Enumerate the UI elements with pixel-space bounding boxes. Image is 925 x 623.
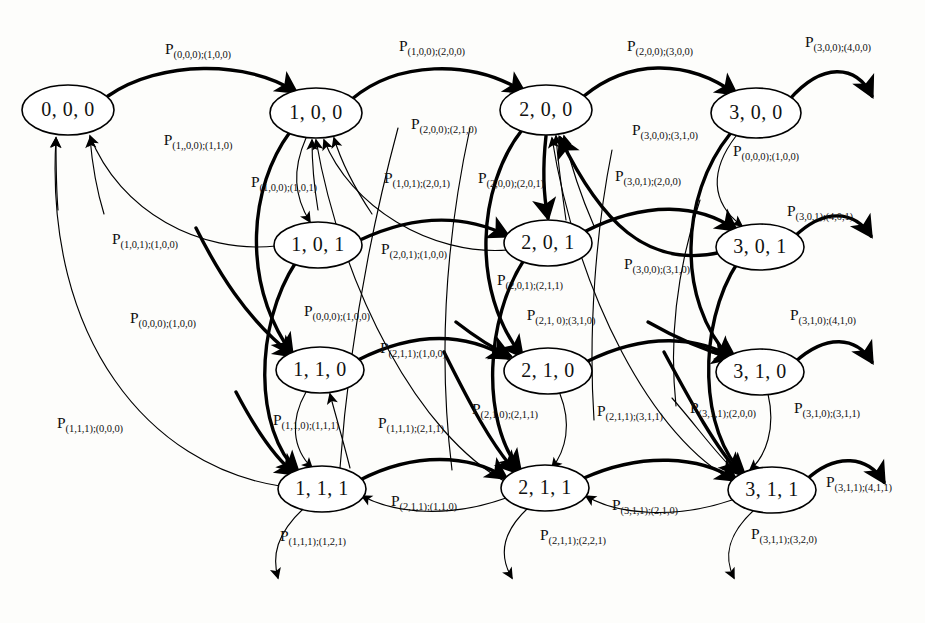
edge-101-to-000 [90, 136, 276, 247]
edge-100-to-101 [297, 138, 310, 222]
node-label: 3, 1, 1 [745, 478, 799, 500]
state-node-210[interactable]: 2, 1, 0 [504, 348, 592, 394]
edge-000-to-100 [108, 68, 296, 96]
node-label: 3, 0, 1 [733, 235, 787, 257]
edge-211-to-100 [316, 140, 506, 482]
edge-into-200-b [564, 136, 594, 226]
edge-111-to-211 [360, 460, 506, 481]
edge-into-100-b [334, 138, 372, 214]
edge-211-to-221-exit [504, 508, 528, 578]
edge-110-to-111 [295, 392, 312, 468]
edge-301-crossing-a [592, 150, 612, 420]
edge-311-to-320-exit [729, 510, 754, 578]
edge-300-to-400-exit [789, 72, 872, 100]
state-node-201[interactable]: 2, 0, 1 [504, 220, 592, 266]
state-transition-diagram: 0, 0, 01, 0, 02, 0, 03, 0, 01, 0, 12, 0,… [0, 0, 925, 623]
state-node-111[interactable]: 1, 1, 1 [278, 466, 366, 512]
node-label: 3, 1, 0 [733, 360, 787, 382]
edge-310-to-311 [750, 394, 771, 470]
node-label: 1, 1, 0 [293, 358, 347, 380]
edge-into-100-a [312, 140, 318, 210]
node-label: 2, 0, 1 [521, 231, 575, 253]
node-label: 3, 0, 0 [729, 101, 783, 123]
edge-100-to-200 [352, 69, 524, 99]
node-label: 1, 0, 0 [289, 101, 343, 123]
state-node-101[interactable]: 1, 0, 1 [274, 222, 362, 268]
edge-111-to-110 [330, 394, 350, 468]
edge-200-to-300 [584, 68, 736, 96]
state-node-310[interactable]: 3, 1, 0 [716, 349, 804, 395]
node-label: 2, 1, 0 [521, 359, 575, 381]
edge-111-to-000 [55, 138, 280, 486]
state-node-211[interactable]: 2, 1, 1 [501, 465, 589, 511]
edge-301-to-401-exit [794, 216, 871, 237]
edge-310-to-410-exit [795, 342, 872, 362]
node-label: 1, 0, 1 [291, 233, 345, 255]
edge-cluster-into-210 [456, 322, 510, 356]
edge-311-to-211 [586, 496, 732, 512]
state-node-110[interactable]: 1, 1, 0 [276, 347, 364, 393]
edge-211-to-111 [362, 496, 506, 511]
edge-200-to-201 [544, 136, 548, 218]
state-node-311[interactable]: 3, 1, 1 [728, 467, 816, 513]
diagram-canvas: 0, 0, 01, 0, 02, 0, 03, 0, 01, 0, 12, 0,… [0, 0, 925, 623]
edge-210-to-211 [552, 394, 566, 468]
state-node-200[interactable]: 2, 0, 0 [500, 85, 592, 135]
edge-311-to-411-exit [806, 461, 884, 482]
edge-101-crossing-a [340, 128, 398, 468]
edge-into-000-b [90, 138, 104, 214]
edge-101-crossing-b [445, 128, 470, 470]
state-node-000[interactable]: 0, 0, 0 [22, 85, 114, 135]
state-node-301[interactable]: 3, 0, 1 [716, 224, 804, 270]
edge-111-to-121-exit [276, 508, 304, 578]
edge-211-to-311 [584, 460, 736, 480]
node-label: 0, 0, 0 [41, 98, 95, 120]
node-label: 2, 0, 0 [519, 98, 573, 120]
node-label: 1, 1, 1 [295, 477, 349, 499]
state-node-300[interactable]: 3, 0, 0 [711, 88, 801, 138]
node-label: 2, 1, 1 [518, 476, 572, 498]
state-node-100[interactable]: 1, 0, 0 [270, 88, 362, 138]
